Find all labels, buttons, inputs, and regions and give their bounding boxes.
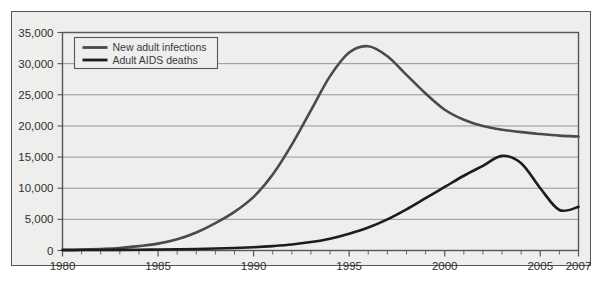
y-tick-label-20000: 20,000 <box>18 120 53 132</box>
x-tick-label-1990: 1990 <box>241 260 267 272</box>
y-tick-label-10000: 10,000 <box>18 182 53 194</box>
x-tick-label-2007: 2007 <box>566 260 592 272</box>
x-axis-ticks <box>63 251 579 257</box>
x-tick-label-1980: 1980 <box>50 260 76 272</box>
y-tick-label-25000: 25,000 <box>18 89 53 101</box>
x-tick-label-2000: 2000 <box>432 260 458 272</box>
chart-figure: 05,00010,00015,00020,00025,00030,00035,0… <box>0 0 604 288</box>
chart-legend: New adult infectionsAdult AIDS deaths <box>75 38 218 69</box>
x-tick-label-1995: 1995 <box>336 260 362 272</box>
x-tick-label-1985: 1985 <box>145 260 171 272</box>
y-tick-label-35000: 35,000 <box>18 27 53 39</box>
y-tick-label-30000: 30,000 <box>18 58 53 70</box>
legend-label-1: Adult AIDS deaths <box>113 54 198 66</box>
y-axis-tick-labels: 05,00010,00015,00020,00025,00030,00035,0… <box>18 27 62 257</box>
series-line-1 <box>63 156 579 250</box>
x-tick-label-2005: 2005 <box>527 260 553 272</box>
legend-label-0: New adult infections <box>113 41 207 53</box>
y-tick-label-5000: 5,000 <box>25 213 54 225</box>
y-tick-label-0: 0 <box>47 245 53 257</box>
x-axis-tick-labels: 1980198519901995200020052007 <box>50 260 592 272</box>
y-tick-label-15000: 15,000 <box>18 151 53 163</box>
line-chart: 05,00010,00015,00020,00025,00030,00035,0… <box>0 0 604 288</box>
